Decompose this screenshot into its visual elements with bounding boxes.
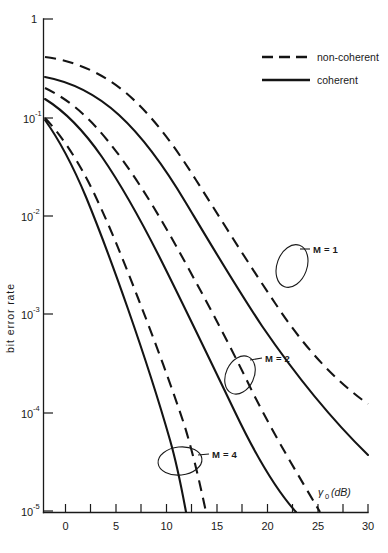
y-tick-label-1e-5-base: 10 xyxy=(21,506,33,518)
chart-legend: non-coherent coherent xyxy=(262,51,379,86)
annotation-m1: M = 1 xyxy=(270,240,338,292)
x-tick-label-5: 5 xyxy=(113,520,119,532)
x-axis-ticks xyxy=(66,504,369,513)
x-axis-title-unit: (dB) xyxy=(331,486,351,498)
chart-figure: 1 10 -1 10 -2 10 -3 10 -4 10 -5 bit erro… xyxy=(0,0,388,553)
y-tick-label-1e-3-exp: -3 xyxy=(33,305,40,314)
annotation-label-m4: M = 4 xyxy=(212,449,238,460)
annotation-m2: M = 2 xyxy=(219,351,290,399)
y-tick-label-1e-3-base: 10 xyxy=(21,309,33,321)
y-tick-label-1e-4-exp: -4 xyxy=(33,404,40,413)
y-tick-label-1e-4-base: 10 xyxy=(21,408,33,420)
bit-error-rate-chart: 1 10 -1 10 -2 10 -3 10 -4 10 -5 bit erro… xyxy=(0,0,388,553)
chart-curves xyxy=(45,57,368,512)
legend-item-coherent: coherent xyxy=(262,74,358,86)
y-axis-title: bit error rate xyxy=(4,283,16,353)
x-tick-label-25: 25 xyxy=(312,520,324,532)
x-axis-tick-labels: 0 5 10 15 20 25 30 xyxy=(62,520,374,532)
chart-axes xyxy=(44,19,369,513)
curve-m1-coherent xyxy=(45,77,368,455)
x-tick-label-10: 10 xyxy=(160,520,172,532)
x-axis-title: γ 0 (dB) xyxy=(318,486,351,501)
y-tick-label-1e-5-exp: -5 xyxy=(33,502,40,511)
annotation-label-m1: M = 1 xyxy=(313,244,339,255)
legend-label-coherent: coherent xyxy=(317,74,358,86)
curve-m2-coherent xyxy=(45,99,296,512)
y-tick-label-1e-2-exp: -2 xyxy=(33,207,40,216)
annotation-ellipse-m1 xyxy=(270,240,313,292)
legend-label-non-coherent: non-coherent xyxy=(317,51,379,63)
y-tick-label-1e-1-exp: -1 xyxy=(35,109,42,118)
x-axis-title-gamma: γ xyxy=(318,486,324,498)
annotation-label-m2: M = 2 xyxy=(265,353,290,364)
curve-m4-non-coherent xyxy=(45,118,206,512)
x-axis-title-subscript: 0 xyxy=(325,492,329,501)
legend-item-non-coherent: non-coherent xyxy=(262,51,379,63)
y-axis-ticks xyxy=(44,19,54,511)
x-tick-label-0: 0 xyxy=(62,520,68,532)
x-tick-label-30: 30 xyxy=(362,520,374,532)
x-tick-label-15: 15 xyxy=(211,520,223,532)
curve-annotations: M = 1 M = 2 M = 4 xyxy=(157,240,339,477)
curve-m2-non-coherent xyxy=(45,88,320,512)
y-axis-tick-labels: 1 10 -1 10 -2 10 -3 10 -4 10 -5 xyxy=(21,13,42,518)
y-tick-label-1e-2-base: 10 xyxy=(21,211,33,223)
y-tick-label-1e-1-base: 10 xyxy=(23,113,35,125)
y-tick-label-1: 1 xyxy=(31,13,37,25)
x-tick-label-20: 20 xyxy=(261,520,273,532)
